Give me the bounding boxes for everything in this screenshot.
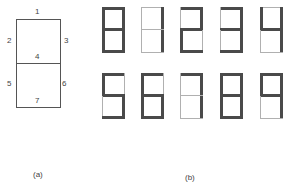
digit-display-6: [141, 73, 164, 119]
digit-display-8: [102, 7, 125, 53]
segment-5-off: [180, 96, 181, 119]
segment-7-off: [180, 118, 203, 119]
digit-display-5: [102, 73, 125, 119]
segment-6-on: [161, 30, 164, 53]
segment-3-on: [161, 7, 164, 30]
segment-5-off: [260, 30, 261, 53]
segment-2-on: [102, 73, 105, 96]
segment-label-2: 2: [7, 37, 11, 45]
digit-display-3: [220, 7, 243, 53]
segment-7-on: [220, 116, 243, 119]
segment-2-on: [260, 73, 263, 96]
segment-7-on: [102, 50, 125, 53]
digit-display-8: [220, 73, 243, 119]
segment-7-off: [260, 52, 283, 53]
segment-2-on: [260, 7, 263, 30]
segment-2-off: [180, 7, 181, 30]
segment-7-on: [220, 50, 243, 53]
segment-3-on: [240, 73, 243, 96]
segment-1-on: [141, 73, 164, 76]
segment-7-off: [260, 118, 283, 119]
segment-5-off: [260, 96, 261, 119]
segment-2-on: [220, 73, 223, 96]
segment-2-on: [102, 7, 105, 30]
segment-2-off: [141, 7, 142, 30]
segment-1-on: [102, 73, 125, 76]
digit-display-9: [260, 73, 283, 119]
segment-3-on: [280, 7, 283, 30]
segment-4-on: [180, 28, 203, 31]
reference-middle-segment: [17, 63, 60, 64]
segment-3-on: [122, 7, 125, 30]
segment-3-on: [200, 7, 203, 30]
segment-6-on: [200, 96, 203, 119]
segment-6-on: [280, 30, 283, 53]
segment-label-7: 7: [35, 97, 39, 105]
segment-3-on: [200, 73, 203, 96]
segment-label-6: 6: [62, 80, 66, 88]
segment-7-on: [141, 116, 164, 119]
segment-label-5: 5: [7, 80, 11, 88]
digit-display-1: [141, 7, 164, 53]
segment-7-on: [180, 50, 203, 53]
segment-5-off: [141, 30, 142, 53]
digit-display-7: [180, 73, 203, 119]
segment-7-off: [141, 52, 164, 53]
digit-display-2: [180, 7, 203, 53]
segment-3-off: [163, 73, 164, 96]
segment-3-on: [240, 7, 243, 30]
digit-display-4: [260, 7, 283, 53]
caption-b: (b): [185, 173, 195, 182]
segment-label-4: 4: [35, 53, 39, 61]
segment-3-off: [124, 73, 125, 96]
reference-outline: [16, 19, 61, 108]
segment-2-on: [141, 73, 144, 96]
caption-a: (a): [33, 170, 43, 179]
segment-label-1: 1: [35, 8, 39, 16]
segment-7-on: [102, 116, 125, 119]
segment-2-off: [220, 7, 221, 30]
segment-3-on: [280, 73, 283, 96]
segment-label-3: 3: [64, 37, 68, 45]
segment-2-off: [180, 73, 181, 96]
segment-6-on: [280, 96, 283, 119]
